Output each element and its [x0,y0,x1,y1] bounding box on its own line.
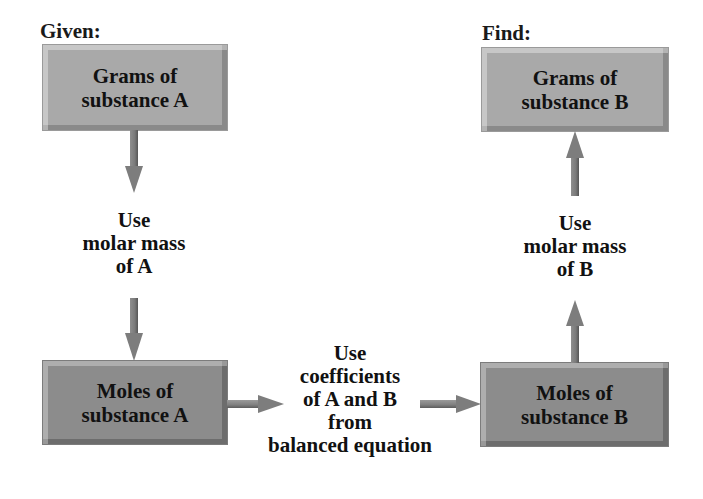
arrow-right-icon [420,395,481,413]
arrows-layer [0,0,703,499]
arrow-right-icon [227,395,284,413]
arrow-down-icon [125,298,143,361]
arrow-down-icon [125,130,143,193]
arrow-up-icon [566,131,584,196]
arrow-up-icon [566,300,584,363]
